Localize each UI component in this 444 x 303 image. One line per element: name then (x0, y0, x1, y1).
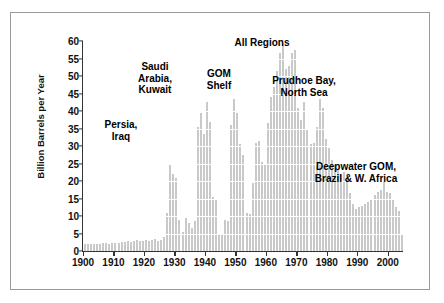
chart-figure: Billion Barrels per Year 051015202530354… (10, 12, 430, 290)
y-tick-label: 30 (68, 141, 79, 152)
y-tick-label: 20 (68, 176, 79, 187)
x-tick-label: 2000 (377, 257, 399, 268)
x-tick-label: 1970 (285, 257, 307, 268)
x-tick-mark (113, 251, 114, 256)
x-tick-mark (327, 251, 328, 256)
x-tick-label: 1980 (316, 257, 338, 268)
x-tick-mark (83, 251, 84, 256)
x-tick-mark (357, 251, 358, 256)
y-tick-label: 45 (68, 88, 79, 99)
x-tick-mark (388, 251, 389, 256)
y-tick-label: 35 (68, 123, 79, 134)
x-tick-label: 1920 (133, 257, 155, 268)
y-tick-label: 60 (68, 36, 79, 47)
x-tick-mark (174, 251, 175, 256)
x-tick-mark (205, 251, 206, 256)
annotation-persia-iraq: Persia, Iraq (81, 119, 161, 142)
x-tick-label: 1940 (194, 257, 216, 268)
y-tick-label: 50 (68, 71, 79, 82)
x-tick-mark (144, 251, 145, 256)
annotation-prudhoe-bay: Prudhoe Bay, North Sea (249, 75, 359, 98)
y-axis-label: Billion Barrels per Year (35, 52, 46, 202)
bar (400, 234, 403, 252)
annotation-saudi-kuwait: Saudi Arabia, Kuwait (115, 61, 195, 96)
annotation-all-regions: All Regions (207, 37, 317, 49)
x-tick-mark (235, 251, 236, 256)
y-tick-label: 40 (68, 106, 79, 117)
x-tick-label: 1960 (255, 257, 277, 268)
x-tick-label: 1930 (163, 257, 185, 268)
y-tick-label: 25 (68, 158, 79, 169)
x-tick-label: 1910 (102, 257, 124, 268)
x-tick-mark (266, 251, 267, 256)
x-tick-mark (296, 251, 297, 256)
y-tick-label: 10 (68, 211, 79, 222)
annotation-gom-shelf: GOM Shelf (189, 68, 249, 91)
y-tick-label: 15 (68, 193, 79, 204)
annotation-deepwater: Deepwater GOM, Brazil & W. Africa (291, 161, 421, 184)
x-tick-label: 1990 (346, 257, 368, 268)
x-tick-label: 1900 (72, 257, 94, 268)
x-tick-label: 1950 (224, 257, 246, 268)
y-tick-label: 55 (68, 53, 79, 64)
